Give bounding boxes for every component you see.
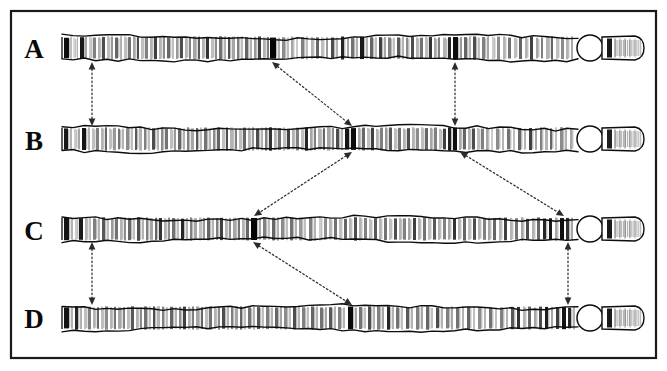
chromosome-band [535,128,537,150]
chromosome-band [120,36,122,60]
chromosome-band [481,129,484,150]
chromosome-band [473,37,476,60]
chromosome-band [394,128,396,150]
chromosome-band [545,128,548,150]
chromosome-band [421,127,423,151]
chromosome-band [526,219,529,240]
chromosome-band [123,307,125,329]
chromosome-band [296,37,298,59]
chromosome-band [189,37,191,59]
chromosome-band [384,218,387,240]
chromosome-band [441,307,443,328]
chromosome-band [243,128,246,151]
chromosome-band [250,38,252,59]
chromosome-band [403,218,406,239]
chromosome-band [304,219,306,240]
chromosome-band [269,127,272,150]
chromosome-band [453,218,456,239]
chromosome-band [213,128,215,150]
chromosome-band [275,307,278,328]
chromosome-band [546,37,549,59]
chromosome-band [443,219,446,240]
chromosome-band [157,128,159,151]
chromosome-band [488,218,490,241]
row-label-b: B [25,126,43,156]
chromosome-band [176,37,178,59]
chromosome-band [412,127,414,151]
chromosome-band [245,37,248,59]
chromosome-band [513,128,515,150]
chromosome-band [373,307,375,330]
chromosome-band [478,38,480,59]
chromosome-band [556,307,559,329]
chromosome-band [139,127,142,150]
chromosome-band [244,307,246,330]
chromosome-band [571,36,573,59]
chromosome-band [290,218,293,241]
chromosome-cap-band [607,130,612,149]
chromosome-band [217,128,220,151]
chromosome-band [306,36,308,59]
chromosome-band [122,129,124,150]
chromosome-band [238,218,240,240]
chromosome-band [251,218,257,240]
chromosome-band [154,37,157,59]
chromosome-band [493,218,496,240]
chromosome-band [111,37,113,60]
chromosome-band [370,37,373,59]
chromosome-band [278,128,281,150]
chromosome-band [73,38,75,59]
chromosome-band [491,128,493,150]
chromosome-row-c [62,215,644,243]
chromosome-band [97,307,99,329]
chromosome-band [114,307,116,329]
chromosome-band [389,218,391,240]
chromosome-band [329,219,331,240]
chromosome-band [120,218,122,241]
chromosome-band [220,218,223,240]
row-label-d: D [24,304,44,334]
chromosome-band [495,308,497,329]
chromosome-band [93,307,95,328]
chromosome-band [571,218,573,241]
chromosome-band [75,306,78,329]
chromosome-band [453,128,457,151]
chromosome-band [93,218,96,239]
chromosome-band [88,127,90,150]
chromosome-band [229,218,231,240]
chromosome-band [468,128,470,150]
chromosome-band [413,218,416,240]
chromosome-band [351,38,354,59]
chromosome-band [483,218,486,240]
chromosome-band [428,218,430,240]
chromosome-band [348,307,353,330]
chromosome-band [326,38,328,59]
chromosome-band [128,37,131,59]
chromosome-band [341,128,343,150]
chromosome-band [550,128,552,149]
chromosome-band [496,128,499,149]
chromosome-band [261,128,263,151]
chromosome-band [324,218,327,240]
chromosome-band [462,306,464,330]
chromosome-band [431,308,433,329]
chromosome-band [111,218,113,239]
chromosome-band [98,37,100,59]
chromosome-band [529,128,532,150]
chromosome-band [425,128,428,150]
chromosome-band [170,307,173,329]
chromosome-band [183,129,185,150]
chromosome-band [549,218,552,239]
chromosome-band [443,38,446,59]
chromosome-band [148,127,150,151]
chromosome-band [344,219,347,240]
chromosome-band [500,307,503,328]
chromosome-band [511,307,514,330]
chromosome-band [105,306,108,329]
chromosome-band [314,217,316,241]
chromosome-band [98,217,100,240]
chromosome-band [70,36,72,59]
chromosome-band [541,38,543,59]
chromosome-band [126,128,129,150]
chromosome-band [212,218,214,240]
